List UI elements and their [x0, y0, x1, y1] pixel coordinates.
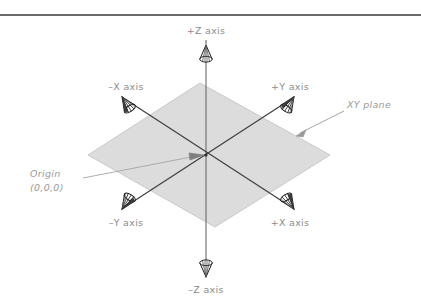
xy-plane-leader-arrow	[296, 130, 306, 137]
origin-label-line1: Origin	[30, 168, 61, 179]
arrowhead-pos-x	[279, 192, 299, 213]
arrowhead-neg-x	[117, 93, 137, 114]
axis-label-neg-y: –Y axis	[109, 217, 144, 228]
coordinate-system-figure: +Z axis –Z axis –X axis +Y axis –Y axis …	[0, 0, 421, 301]
axis-label-pos-y: +Y axis	[271, 81, 309, 92]
origin-point	[204, 153, 207, 156]
diagram-canvas: +Z axis –Z axis –X axis +Y axis –Y axis …	[0, 0, 421, 301]
xy-plane-leader-line	[300, 111, 344, 133]
axis-label-neg-x: –X axis	[108, 81, 143, 92]
axis-label-pos-x: +X axis	[271, 217, 310, 228]
arrowhead-neg-y	[117, 192, 137, 213]
xy-plane-label: XY plane	[346, 99, 391, 110]
axis-label-neg-z: –Z axis	[188, 284, 223, 295]
origin-label-line2: (0,0,0)	[30, 182, 64, 193]
arrowhead-pos-z	[200, 45, 212, 62]
axis-label-pos-z: +Z axis	[187, 25, 226, 36]
arrowhead-neg-z	[200, 260, 212, 277]
arrowhead-pos-y	[279, 93, 299, 114]
